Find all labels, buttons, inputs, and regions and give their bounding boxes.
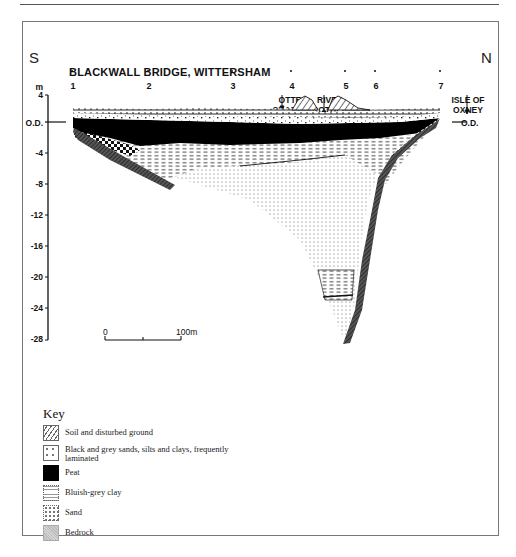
cross-section-diagram	[0, 0, 516, 557]
scale-bar	[105, 336, 181, 340]
soil-mound	[328, 96, 370, 110]
soil-mound	[292, 96, 318, 110]
borehole-markers	[71, 70, 441, 72]
